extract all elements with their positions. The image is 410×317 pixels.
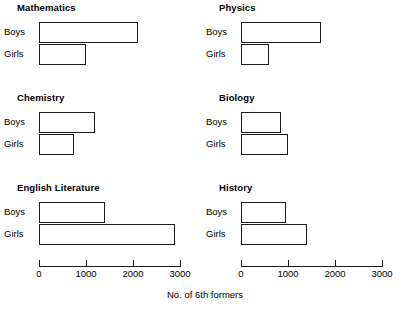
panel-title-physics: Physics bbox=[219, 2, 256, 13]
bar-biology-boys bbox=[241, 112, 281, 133]
panel-biology: Biology Boys Girls bbox=[206, 92, 406, 180]
bar-chemistry-girls bbox=[39, 134, 74, 155]
bar-label-girls: Girls bbox=[206, 138, 237, 149]
panel-english-literature: English Literature Boys Girls bbox=[4, 182, 204, 270]
panel-physics: Physics Boys Girls bbox=[206, 2, 406, 90]
bar-label-girls: Girls bbox=[206, 228, 237, 239]
bars-english-literature: Boys Girls bbox=[4, 200, 204, 258]
bar-history-girls bbox=[241, 224, 307, 245]
bars-history: Boys Girls bbox=[206, 200, 406, 258]
bar-history-boys bbox=[241, 202, 286, 223]
axis-tick-label: 2000 bbox=[122, 268, 143, 279]
bars-mathematics: Boys Girls bbox=[4, 20, 204, 78]
bars-physics: Boys Girls bbox=[206, 20, 406, 78]
bar-label-girls: Girls bbox=[4, 138, 35, 149]
bar-row-girls: Girls bbox=[4, 224, 204, 246]
x-axis-title: No. of 6th formers bbox=[0, 289, 410, 300]
axis-tick-label: 0 bbox=[36, 268, 41, 279]
axis-tick-label: 0 bbox=[238, 268, 243, 279]
axis-tick bbox=[288, 260, 289, 267]
bar-mathematics-girls bbox=[39, 44, 86, 65]
bar-label-boys: Boys bbox=[206, 116, 237, 127]
bar-label-girls: Girls bbox=[4, 48, 35, 59]
bar-physics-boys bbox=[241, 22, 321, 43]
bar-row-boys: Boys bbox=[206, 22, 406, 44]
bar-row-boys: Boys bbox=[4, 112, 204, 134]
panel-title-mathematics: Mathematics bbox=[17, 2, 76, 13]
x-axis-left: 0100020003000 bbox=[4, 258, 204, 282]
bar-chemistry-boys bbox=[39, 112, 95, 133]
axis-tick-label: 1000 bbox=[277, 268, 298, 279]
bar-row-boys: Boys bbox=[206, 202, 406, 224]
bar-label-girls: Girls bbox=[206, 48, 237, 59]
bar-english-boys bbox=[39, 202, 105, 223]
axis-tick bbox=[382, 260, 383, 267]
bar-physics-girls bbox=[241, 44, 269, 65]
axis-line bbox=[241, 266, 382, 267]
bars-chemistry: Boys Girls bbox=[4, 110, 204, 168]
bar-label-girls: Girls bbox=[4, 228, 35, 239]
x-axis-right: 0100020003000 bbox=[206, 258, 406, 282]
panel-title-english-literature: English Literature bbox=[17, 182, 100, 193]
panel-history: History Boys Girls bbox=[206, 182, 406, 270]
axis-line bbox=[39, 266, 180, 267]
bar-label-boys: Boys bbox=[206, 206, 237, 217]
bar-row-boys: Boys bbox=[4, 22, 204, 44]
bar-english-girls bbox=[39, 224, 175, 245]
bar-row-girls: Girls bbox=[206, 44, 406, 66]
bar-row-girls: Girls bbox=[4, 134, 204, 156]
panel-chemistry: Chemistry Boys Girls bbox=[4, 92, 204, 180]
bar-biology-girls bbox=[241, 134, 288, 155]
panel-mathematics: Mathematics Boys Girls bbox=[4, 2, 204, 90]
bar-label-boys: Boys bbox=[4, 26, 35, 37]
bar-label-boys: Boys bbox=[206, 26, 237, 37]
axis-tick-label: 2000 bbox=[324, 268, 345, 279]
axis-tick bbox=[241, 260, 242, 267]
axis-tick-label: 3000 bbox=[169, 268, 190, 279]
panel-title-chemistry: Chemistry bbox=[17, 92, 64, 103]
axis-tick bbox=[335, 260, 336, 267]
axis-tick-label: 3000 bbox=[371, 268, 392, 279]
bars-biology: Boys Girls bbox=[206, 110, 406, 168]
axis-tick bbox=[180, 260, 181, 267]
panel-title-biology: Biology bbox=[219, 92, 255, 103]
axis-tick bbox=[39, 260, 40, 267]
axis-tick bbox=[133, 260, 134, 267]
bar-label-boys: Boys bbox=[4, 206, 35, 217]
bar-mathematics-boys bbox=[39, 22, 138, 43]
bar-row-girls: Girls bbox=[206, 224, 406, 246]
bar-label-boys: Boys bbox=[4, 116, 35, 127]
bar-row-boys: Boys bbox=[206, 112, 406, 134]
bar-row-girls: Girls bbox=[206, 134, 406, 156]
bar-row-girls: Girls bbox=[4, 44, 204, 66]
panel-title-history: History bbox=[219, 182, 252, 193]
axis-tick bbox=[86, 260, 87, 267]
bar-row-boys: Boys bbox=[4, 202, 204, 224]
axis-tick-label: 1000 bbox=[75, 268, 96, 279]
bar-chart-figure: Mathematics Boys Girls Physics Boys Girl… bbox=[0, 0, 410, 317]
